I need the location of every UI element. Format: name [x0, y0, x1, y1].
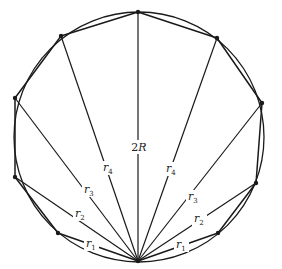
- vertex-dot: [260, 101, 264, 105]
- chord-line: [138, 103, 262, 261]
- inscribed-polygon-diagram: r1r2r3r4r1r2r3r42R: [0, 0, 282, 269]
- vertex-dot: [13, 175, 17, 179]
- vertex-dot: [216, 231, 220, 235]
- vertex-dot: [254, 181, 258, 185]
- label-diameter-2R: 2R: [131, 141, 146, 154]
- vertex-dot: [136, 10, 140, 14]
- vertex-dot: [215, 36, 219, 40]
- chord-line: [15, 98, 138, 261]
- vertex-dot: [136, 259, 140, 263]
- chord-line: [61, 36, 138, 261]
- vertex-dot: [56, 231, 60, 235]
- labels: r1r2r3r4r1r2r3r42R: [73, 140, 207, 253]
- vertex-dot: [13, 96, 17, 100]
- vertex-dot: [59, 34, 63, 38]
